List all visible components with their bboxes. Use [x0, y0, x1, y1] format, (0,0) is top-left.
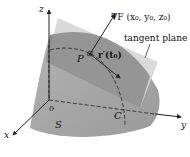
curve-label: C — [114, 111, 122, 121]
diagram-graphics — [0, 0, 190, 157]
tangent-plane-diagram: z x y 0 S C P ∇F (x₀, y₀, z₀) r′(t₀) tan… — [0, 0, 190, 157]
tangent-plane-label: tangent plane — [124, 34, 187, 43]
x-axis-label: x — [4, 131, 9, 140]
z-axis-label: z — [39, 5, 44, 14]
y-axis-label: y — [181, 121, 186, 130]
tangent-vector-label: r′(t₀) — [98, 51, 122, 60]
point-label: P — [77, 54, 84, 64]
origin-label: 0 — [49, 105, 54, 113]
gradient-label: ∇F (x₀, y₀, z₀) — [111, 13, 171, 22]
surface-label: S — [55, 120, 62, 130]
